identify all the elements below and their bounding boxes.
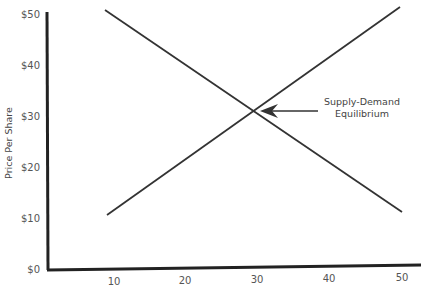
x-axis	[47, 265, 421, 270]
equilibrium-label-line2: Equilibrium	[335, 108, 389, 119]
y-axis-title: Price Per Share	[3, 107, 14, 179]
y-tick-label: $40	[21, 60, 40, 71]
y-tick-label: $20	[21, 162, 40, 173]
y-tick-label: $50	[21, 9, 40, 20]
y-axis	[47, 12, 48, 270]
x-tick-label: 30	[251, 274, 264, 285]
arrow-icon	[260, 104, 318, 118]
y-tick-label: $0	[27, 264, 40, 275]
y-tick-label: $30	[21, 111, 40, 122]
equilibrium-label-line1: Supply-Demand	[324, 96, 400, 107]
x-tick-label: 10	[108, 276, 121, 287]
x-tick-label: 50	[396, 272, 409, 283]
x-tick-label: 20	[179, 275, 192, 286]
y-tick-label: $10	[21, 213, 40, 224]
supply-demand-chart: $50 $40 $30 $20 $10 $0 Price Per Share 1…	[0, 0, 421, 294]
x-tick-label: 40	[323, 273, 336, 284]
